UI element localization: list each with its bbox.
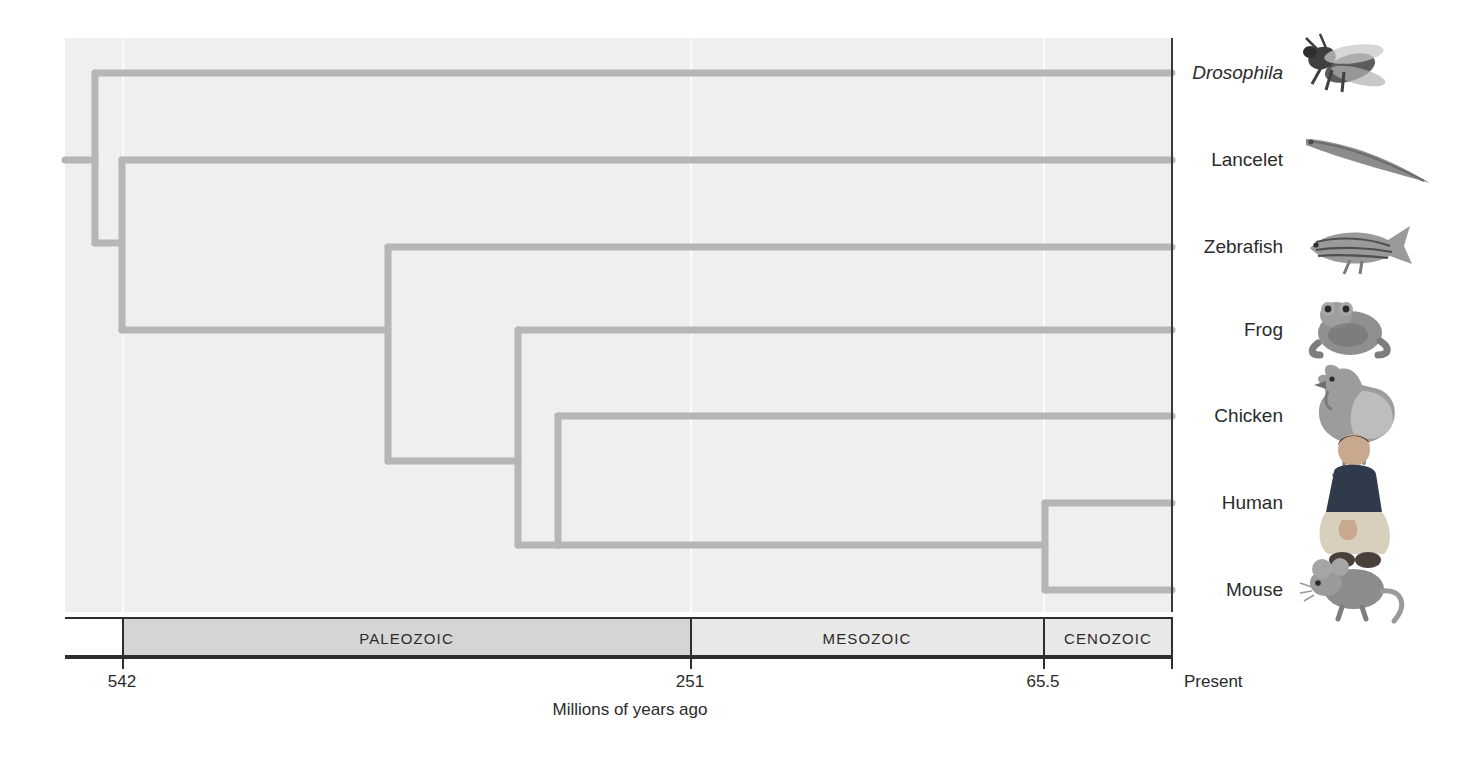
lancelet-icon <box>1298 121 1438 191</box>
era-paleozoic-label: PALEOZOIC <box>359 630 454 647</box>
zebrafish-icon <box>1292 216 1422 278</box>
tick-mark-present <box>1171 617 1173 669</box>
tick-mark-251 <box>690 617 692 669</box>
taxon-label-human: Human <box>1188 492 1283 514</box>
fly-icon <box>1292 32 1402 102</box>
tick-mark-542 <box>122 617 124 669</box>
era-cenozoic-label: CENOZOIC <box>1064 630 1152 647</box>
tick-label-251: 251 <box>676 672 704 692</box>
taxon-label-drosophila: Drosophila <box>1188 62 1283 84</box>
mouse-icon <box>1296 545 1416 631</box>
tick-mark-65-5 <box>1043 617 1045 669</box>
axis-title: Millions of years ago <box>0 700 1260 720</box>
taxon-label-zebrafish: Zebrafish <box>1188 236 1283 258</box>
era-mesozoic-label: MESOZOIC <box>823 630 912 647</box>
era-cenozoic: CENOZOIC <box>1043 619 1172 657</box>
present-axis-line <box>1171 38 1173 612</box>
era-mesozoic: MESOZOIC <box>690 619 1043 657</box>
taxon-label-chicken: Chicken <box>1188 405 1283 427</box>
tick-label-65-5: 65.5 <box>1026 672 1059 692</box>
era-paleozoic: PALEOZOIC <box>122 619 690 657</box>
taxon-label-frog: Frog <box>1188 319 1283 341</box>
tick-label-542: 542 <box>108 672 136 692</box>
time-axis-line <box>65 655 1172 657</box>
tick-label-present: Present <box>1184 672 1243 692</box>
taxon-label-lancelet: Lancelet <box>1188 149 1283 171</box>
geologic-era-band: PALEOZOIC MESOZOIC CENOZOIC <box>65 617 1172 659</box>
taxon-label-mouse: Mouse <box>1188 579 1283 601</box>
phylogenetic-tree-figure: PALEOZOIC MESOZOIC CENOZOIC 542 251 65.5… <box>0 0 1475 760</box>
